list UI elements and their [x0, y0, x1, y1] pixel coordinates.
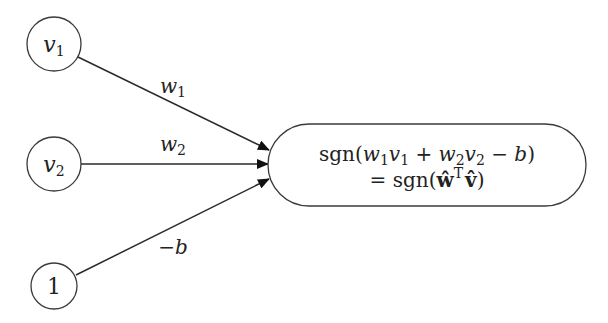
weight-label-w1: w1 — [160, 74, 186, 100]
output-node: sgn(w1v1 + w2v2 − b) = sgn(ŵTv̂) — [268, 124, 586, 206]
input-node-v2: v2 — [27, 137, 81, 191]
weight-label-bias: −b — [158, 235, 188, 259]
input-node-v1: v1 — [27, 17, 81, 71]
edge-bias-output — [76, 179, 269, 275]
output-formula-line1: sgn(w1v1 + w2v2 − b) — [319, 142, 535, 168]
bias-node: 1 — [31, 263, 77, 309]
perceptron-diagram: v1 v2 1 w1 w2 −b sgn(w1v1 + w2v2 − b) = … — [0, 0, 608, 323]
node-label: 1 — [47, 274, 61, 299]
weight-label-w2: w2 — [160, 132, 186, 158]
output-formula-line2: = sgn(ŵTv̂) — [370, 165, 485, 192]
